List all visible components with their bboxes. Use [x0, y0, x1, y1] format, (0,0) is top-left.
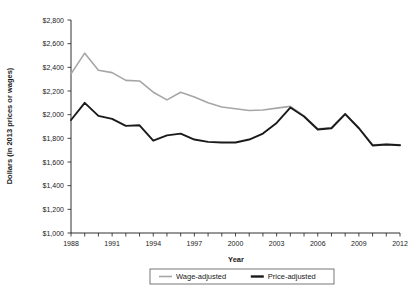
y-tick-label: $2,200 [43, 88, 65, 95]
legend-label: Wage-adjusted [176, 272, 226, 281]
y-tick-label: $1,000 [43, 230, 65, 237]
x-tick-label: 2000 [228, 240, 244, 247]
x-tick-label: 2006 [310, 240, 326, 247]
x-tick-label: 1994 [145, 240, 161, 247]
x-axis-tick-labels: 198819911994199720002003200620092012 [63, 240, 408, 247]
x-tick-label: 2012 [392, 240, 408, 247]
series-line-wage-adjusted [71, 53, 400, 145]
y-axis-tick-labels: $1,000$1,200$1,400$1,600$1,800$2,000$2,2… [43, 17, 65, 237]
y-tick-label: $1,400 [43, 182, 65, 189]
data-series-group [71, 53, 400, 145]
y-tick-label: $2,600 [43, 40, 65, 47]
y-tick-label: $1,800 [43, 135, 65, 142]
y-tick-label: $2,000 [43, 111, 65, 118]
chart-legend: Wage-adjustedPrice-adjusted [150, 269, 334, 284]
x-tick-label: 1988 [63, 240, 79, 247]
y-tick-label: $1,600 [43, 159, 65, 166]
y-tick-label: $2,400 [43, 64, 65, 71]
y-axis-tick-marks [68, 20, 72, 233]
x-axis-tick-marks [71, 233, 400, 237]
y-tick-label: $2,800 [43, 17, 65, 24]
x-tick-label: 1997 [187, 240, 203, 247]
line-chart: Dollars (in 2013 prices or wages) Year $… [0, 0, 419, 295]
x-tick-label: 2009 [351, 240, 367, 247]
x-tick-label: 1991 [104, 240, 120, 247]
y-axis-title: Dollars (in 2013 prices or wages) [5, 67, 14, 184]
chart-figure: Dollars (in 2013 prices or wages) Year $… [0, 0, 419, 295]
legend-label: Price-adjusted [268, 272, 316, 281]
x-tick-label: 2003 [269, 240, 285, 247]
x-axis-title: Year [228, 255, 244, 264]
y-tick-label: $1,200 [43, 206, 65, 213]
